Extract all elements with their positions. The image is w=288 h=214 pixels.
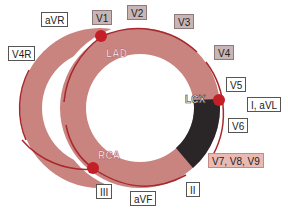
lcx-label: LCX <box>185 94 206 105</box>
lead-v7-v9: V7, V8, V9 <box>208 153 264 168</box>
lead-ii: II <box>186 182 200 197</box>
lead-i-avl: I, aVL <box>247 97 281 112</box>
lad-label: LAD <box>106 48 127 59</box>
rca-dot <box>87 162 99 174</box>
lead-v3: V3 <box>174 14 194 29</box>
lead-v4: V4 <box>214 45 234 60</box>
lad-dot <box>95 30 107 42</box>
lcx-dot <box>213 94 225 106</box>
rca-label: RCA <box>98 150 120 161</box>
lead-v1: V1 <box>92 10 112 25</box>
lead-v5: V5 <box>226 77 246 92</box>
lead-avf: aVF <box>130 191 156 206</box>
lead-v4r: V4R <box>8 46 35 61</box>
lead-avr: aVR <box>41 12 68 27</box>
lead-v2: V2 <box>127 5 147 20</box>
lead-v6: V6 <box>228 118 248 133</box>
coronary-territory-diagram <box>0 0 288 214</box>
lead-iii: III <box>96 184 112 199</box>
